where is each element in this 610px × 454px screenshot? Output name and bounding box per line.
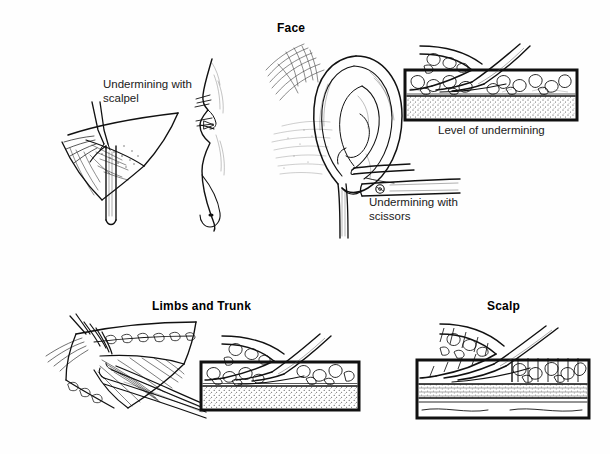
section-heading-limbs-and-trunk: Limbs and Trunk: [152, 299, 251, 313]
face-profile-drawing: [178, 55, 248, 235]
scalp-cross-section-drawing: [414, 322, 594, 432]
figure-limbs-cross-section: [198, 334, 363, 416]
figure-face-profile: [178, 55, 248, 235]
figure-limbs-flap: [44, 312, 209, 432]
illustration-plate: Undermining with scalpel: [0, 0, 610, 454]
label-undermining-scissors: Undermining with scissors: [369, 196, 458, 223]
figure-scalp-cross-section: [414, 322, 594, 432]
limbs-flap-drawing: [44, 312, 209, 432]
section-heading-face: Face: [277, 21, 305, 35]
figure-face-cross-section: [402, 44, 580, 124]
label-level-of-undermining: Level of undermining: [438, 124, 545, 138]
face-flap-scalpel-drawing: [40, 100, 200, 230]
limbs-cross-section-drawing: [198, 334, 363, 416]
figure-face-flap-scalpel: [40, 100, 200, 230]
section-heading-scalp: Scalp: [487, 299, 520, 313]
face-cross-section-drawing: [402, 44, 580, 124]
